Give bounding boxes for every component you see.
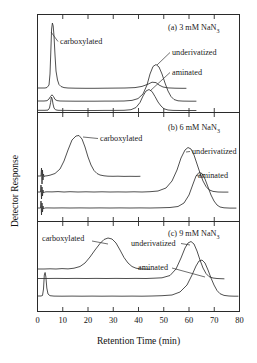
figure-background bbox=[0, 0, 257, 363]
chromatogram-figure: carboxylated underivatized aminated (a) … bbox=[0, 0, 257, 363]
annotation-underivatized-c: underivatized bbox=[131, 239, 176, 248]
annotation-underivatized-b: underivatized bbox=[192, 147, 237, 156]
figure-svg: carboxylated underivatized aminated (a) … bbox=[0, 0, 257, 363]
annotation-aminated-a: aminated bbox=[172, 68, 202, 77]
xtick-0: 0 bbox=[35, 316, 39, 325]
xtick-10: 10 bbox=[59, 316, 67, 325]
leader-aminated-b bbox=[196, 176, 200, 177]
xtick-80: 80 bbox=[235, 316, 243, 325]
xtick-50: 50 bbox=[160, 316, 168, 325]
xtick-40: 40 bbox=[134, 316, 142, 325]
annotation-carboxylated-c: carboxylated bbox=[42, 234, 84, 243]
annotation-aminated-c: aminated bbox=[138, 263, 168, 272]
annotation-carboxylated-b: carboxylated bbox=[100, 134, 142, 143]
annotation-underivatized-a: underivatized bbox=[172, 48, 217, 57]
y-axis-label: Detector Response bbox=[9, 155, 20, 227]
x-axis-tick-labels: 0 10 20 30 40 50 60 70 80 bbox=[35, 316, 243, 325]
annotation-carboxylated-a: carboxylated bbox=[60, 37, 102, 46]
x-axis-label: Retention Time (min) bbox=[97, 335, 180, 347]
leader-underivatized-b bbox=[186, 152, 190, 153]
xtick-70: 70 bbox=[210, 316, 218, 325]
xtick-20: 20 bbox=[84, 316, 92, 325]
xtick-60: 60 bbox=[185, 316, 193, 325]
annotation-aminated-b: aminated bbox=[198, 171, 228, 180]
xtick-30: 30 bbox=[109, 316, 117, 325]
